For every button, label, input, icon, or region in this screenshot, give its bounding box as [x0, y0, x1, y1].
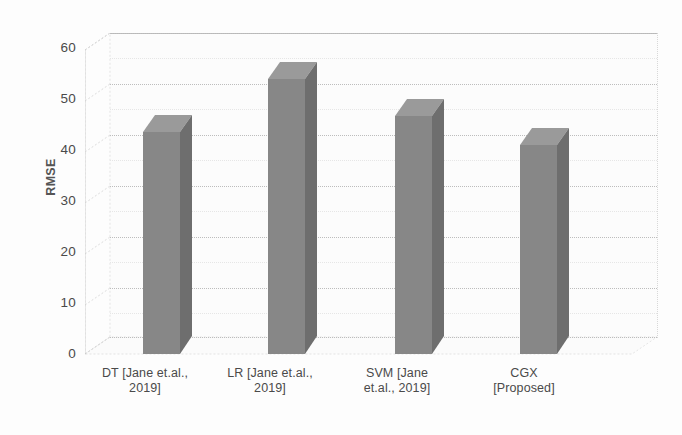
- x-label-cgx-line2: [Proposed]: [465, 381, 583, 396]
- y-tick-label-20: 20: [34, 244, 76, 259]
- x-label-cgx-line1: CGX: [465, 366, 583, 381]
- y-tick-label-50: 50: [34, 91, 76, 106]
- x-label-lr: LR [Jane et.al., 2019]: [211, 366, 329, 396]
- x-label-lr-line2: 2019]: [211, 381, 329, 396]
- y-tick-label-60: 60: [34, 40, 76, 55]
- x-label-cgx: CGX [Proposed]: [465, 366, 583, 396]
- x-label-svm: SVM [Jane et.al., 2019]: [338, 366, 456, 396]
- gridline-45: [110, 109, 657, 110]
- rmse-bar-chart: RMSE 60 50 40 30 20 10 0: [0, 0, 682, 435]
- y-tick-label-40: 40: [34, 142, 76, 157]
- x-label-svm-line2: et.al., 2019]: [338, 381, 456, 396]
- y-tick-label-10: 10: [34, 295, 76, 310]
- plot-area: [85, 33, 657, 355]
- x-label-dt-line1: DT [Jane et.al.,: [86, 366, 204, 381]
- x-label-svm-line1: SVM [Jane: [338, 366, 456, 381]
- x-label-dt: DT [Jane et.al., 2019]: [86, 366, 204, 396]
- gridline-55: [110, 58, 657, 59]
- y-tick-label-30: 30: [34, 193, 76, 208]
- x-label-lr-line1: LR [Jane et.al.,: [211, 366, 329, 381]
- gridline-50: [110, 84, 657, 85]
- x-label-dt-line2: 2019]: [86, 381, 204, 396]
- gridline-60: [110, 33, 657, 34]
- y-tick-label-0: 0: [34, 346, 76, 361]
